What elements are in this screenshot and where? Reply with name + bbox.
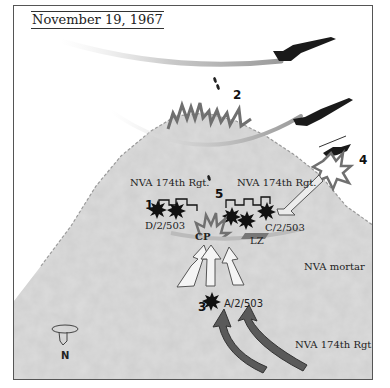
label-a-company: A/2/503 xyxy=(224,298,263,309)
marker-3: 3 xyxy=(198,300,206,314)
label-north: N xyxy=(61,350,69,361)
map-frame: November 19, 1967 NVA 174th Rgt. NVA 174… xyxy=(13,5,373,380)
label-nva-bottom: NVA 174th Rgt. xyxy=(295,339,373,350)
map-date-title: November 19, 1967 xyxy=(31,11,164,29)
jet-trail-upper xyxy=(61,41,281,64)
marker-1: 1 xyxy=(145,198,153,212)
label-nva-left: NVA 174th Rgt. xyxy=(130,177,210,188)
label-cp: CP xyxy=(195,231,210,242)
marker-5: 5 xyxy=(215,187,223,201)
label-c-company: C/2/503 xyxy=(265,222,305,233)
label-lz: LZ xyxy=(250,235,264,246)
label-nva-right: NVA 174th Rgt. xyxy=(237,177,317,188)
battle-map-art xyxy=(14,6,373,380)
helicopter-icon xyxy=(319,136,351,157)
marker-2: 2 xyxy=(233,88,241,102)
label-d-company: D/2/503 xyxy=(145,220,185,231)
jet-upper-icon xyxy=(273,37,336,61)
jet-lower-icon xyxy=(293,98,353,126)
marker-4: 4 xyxy=(359,153,367,167)
label-nva-mortar: NVA mortar xyxy=(304,261,365,272)
